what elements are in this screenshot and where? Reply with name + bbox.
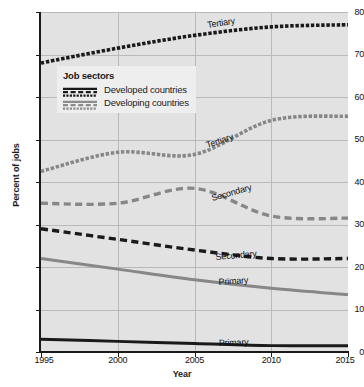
series-label-primary-developed: Primary (219, 337, 249, 348)
chart-root: 80706050403020100 19952000200520102015 P… (0, 0, 364, 387)
legend-item: Developed countries (63, 84, 189, 95)
series-line-primary-developing-countries (41, 259, 348, 295)
legend-swatch-icon (63, 84, 97, 95)
legend-label: Developed countries (104, 84, 187, 95)
series-label-primary-developing: Primary (218, 275, 248, 287)
legend-swatch-icon (63, 97, 97, 108)
legend-items: Developed countriesDeveloping countries (63, 84, 189, 108)
series-line-secondary-developing-countries (41, 188, 348, 219)
legend-label: Developing countries (104, 97, 189, 108)
legend-title: Job sectors (63, 70, 189, 81)
series-line-secondary-developed-countries (41, 229, 348, 259)
series-layer (0, 0, 364, 387)
legend-item: Developing countries (63, 97, 189, 108)
series-line-tertiary-developing-countries (41, 116, 348, 171)
series-line-primary-developed-countries (41, 339, 348, 346)
series-line-tertiary-developed-countries (41, 25, 348, 63)
legend: Job sectors Developed countriesDevelopin… (57, 66, 196, 113)
